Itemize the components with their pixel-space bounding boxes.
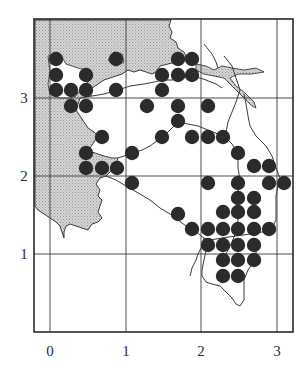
occurrence-dot [49, 83, 63, 97]
occurrence-dot [79, 99, 93, 113]
y-tick-3: 3 [20, 90, 28, 106]
occurrence-dot [247, 205, 261, 219]
occurrence-dot [79, 146, 93, 160]
x-tick-2: 2 [197, 343, 205, 359]
occurrence-dot [109, 52, 123, 66]
x-tick-0: 0 [46, 343, 54, 359]
x-tick-1: 1 [122, 343, 130, 359]
occurrence-dot [125, 176, 139, 190]
occurrence-dot [185, 130, 199, 144]
occurrence-dot [49, 52, 63, 66]
occurrence-dot [64, 83, 78, 97]
occurrence-dot [262, 159, 276, 173]
occurrence-dot [231, 238, 245, 252]
occurrence-dot [231, 253, 245, 267]
occurrence-dot [171, 68, 185, 82]
x-tick-3: 3 [273, 343, 281, 359]
y-axis-labels: 1 2 3 [20, 90, 28, 262]
occurrence-dot [201, 238, 215, 252]
occurrence-dot [79, 68, 93, 82]
occurrence-dot [171, 52, 185, 66]
occurrence-dot [231, 191, 245, 205]
occurrence-dot [125, 146, 139, 160]
occurrence-dot [216, 222, 230, 236]
occurrence-dot [247, 191, 261, 205]
occurrence-dot [49, 68, 63, 82]
occurrence-dots [49, 52, 291, 283]
occurrence-dot [231, 146, 245, 160]
x-axis-labels: 0 1 2 3 [46, 343, 281, 359]
y-tick-1: 1 [20, 246, 28, 262]
occurrence-dot [247, 238, 261, 252]
occurrence-dot [201, 176, 215, 190]
occurrence-dot [95, 161, 109, 175]
occurrence-dot [247, 159, 261, 173]
occurrence-dot [201, 222, 215, 236]
occurrence-dot [155, 83, 169, 97]
occurrence-dot [231, 205, 245, 219]
occurrence-dot [140, 99, 154, 113]
occurrence-dot [216, 253, 230, 267]
occurrence-dot [95, 130, 109, 144]
occurrence-dot [247, 253, 261, 267]
distribution-map: 0 1 2 3 1 2 3 [0, 0, 307, 368]
occurrence-dot [231, 176, 245, 190]
occurrence-dot [231, 222, 245, 236]
occurrence-dot [171, 114, 185, 128]
occurrence-dot [110, 161, 124, 175]
occurrence-dot [262, 222, 276, 236]
occurrence-dot [185, 222, 199, 236]
occurrence-dot [216, 205, 230, 219]
occurrence-dot [216, 238, 230, 252]
occurrence-dot [201, 130, 215, 144]
occurrence-dot [262, 176, 276, 190]
occurrence-dot [201, 99, 215, 113]
occurrence-dot [185, 68, 199, 82]
occurrence-dot [277, 176, 291, 190]
occurrence-dot [155, 130, 169, 144]
occurrence-dot [64, 99, 78, 113]
occurrence-dot [79, 83, 93, 97]
occurrence-dot [171, 99, 185, 113]
occurrence-dot [185, 52, 199, 66]
occurrence-dot [216, 130, 230, 144]
occurrence-dot [155, 68, 169, 82]
map-canvas: 0 1 2 3 1 2 3 [0, 0, 307, 368]
occurrence-dot [231, 269, 245, 283]
occurrence-dot [109, 83, 123, 97]
occurrence-dot [171, 207, 185, 221]
occurrence-dot [216, 269, 230, 283]
occurrence-dot [79, 161, 93, 175]
occurrence-dot [247, 222, 261, 236]
y-tick-2: 2 [20, 168, 28, 184]
